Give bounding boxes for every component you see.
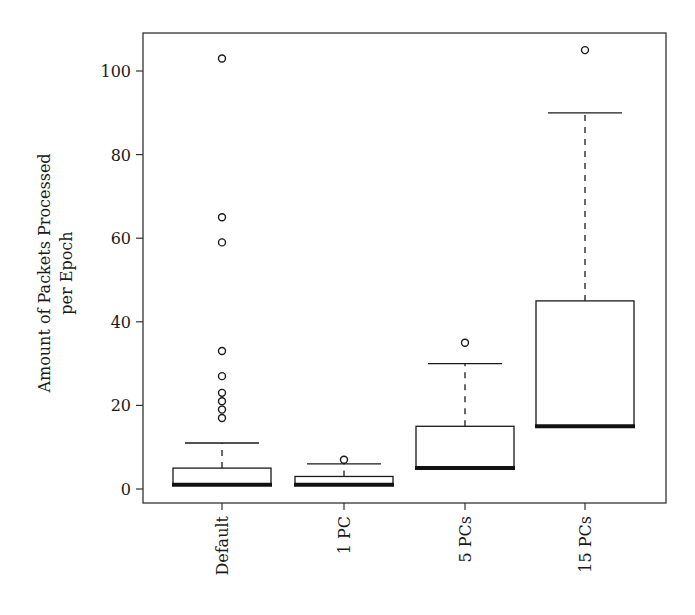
outlier-point [219, 214, 226, 221]
x-axis: Default1 PC5 PCs15 PCs [213, 503, 595, 576]
outlier-point [219, 239, 226, 246]
outlier-point [219, 348, 226, 355]
outlier-point [462, 339, 469, 346]
boxes [172, 47, 635, 485]
outlier-point [219, 389, 226, 396]
outlier-point [219, 55, 226, 62]
outlier-point [341, 456, 348, 463]
y-tick-label: 0 [121, 480, 131, 499]
y-tick-label: 20 [111, 396, 131, 415]
x-tick-label: Default [213, 515, 232, 575]
y-tick-label: 60 [111, 229, 131, 248]
y-axis: 020406080100 [100, 62, 143, 499]
box-1-pc [294, 456, 394, 485]
box-iqr [173, 468, 271, 485]
outlier-point [219, 373, 226, 380]
outlier-point [219, 406, 226, 413]
box-default [172, 55, 272, 485]
y-axis-label-line-1: Amount of Packets Processed [35, 153, 54, 393]
box-iqr [536, 301, 634, 426]
x-tick-label: 5 PCs [456, 516, 475, 562]
x-tick-label: 15 PCs [576, 516, 595, 573]
y-tick-label: 80 [111, 146, 131, 165]
outlier-point [582, 47, 589, 54]
y-axis-label-line-2: per Epoch [57, 231, 76, 314]
box-15-pcs [535, 47, 635, 427]
plot-frame [143, 33, 666, 503]
box-iqr [416, 426, 514, 468]
outlier-point [219, 414, 226, 421]
y-axis-label: Amount of Packets Processed per Epoch [35, 153, 76, 393]
boxplot-chart: 020406080100 Default1 PC5 PCs15 PCs Amou… [0, 0, 695, 615]
x-tick-label: 1 PC [335, 516, 354, 554]
y-tick-label: 40 [111, 313, 131, 332]
outlier-point [219, 398, 226, 405]
y-tick-label: 100 [100, 62, 131, 81]
box-5-pcs [415, 339, 515, 468]
